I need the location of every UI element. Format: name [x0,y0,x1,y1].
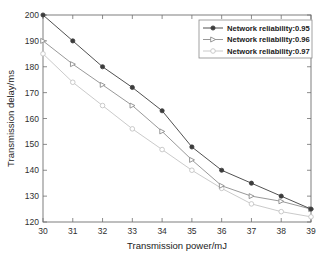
y-tick-label: 170 [25,88,39,98]
data-point-3-1 [70,80,75,85]
data-point-3-8 [279,209,284,214]
chart-canvas: 1201301401501601701801902003031323334353… [0,0,324,261]
data-point-3-0 [41,52,46,57]
data-point-3-2 [100,103,105,108]
x-tick-label: 35 [187,226,197,236]
data-point-1-7 [249,181,253,185]
data-point-3-4 [160,147,165,152]
data-point-3-3 [130,127,135,132]
y-tick-label: 160 [25,114,39,124]
series-line-3 [43,54,311,217]
x-tick-label: 36 [217,226,227,236]
x-tick-label: 39 [306,226,316,236]
x-tick-label: 31 [68,226,78,236]
x-tick-label: 33 [128,226,138,236]
x-tick-label: 34 [157,226,167,236]
x-tick-label: 30 [38,226,48,236]
data-point-3-7 [249,202,254,207]
chart-figure: 1201301401501601701801902003031323334353… [0,0,324,261]
data-point-1-8 [279,194,283,198]
data-point-1-4 [160,109,164,113]
y-tick-label: 180 [25,62,39,72]
y-axis-title: Transmission delay/ms [5,70,16,167]
x-axis-title: Transmission power/mJ [127,240,227,251]
legend-label-2: Network reliability:0.96 [227,35,310,44]
data-point-1-9 [309,207,313,211]
data-point-3-5 [190,168,195,173]
y-tick-label: 130 [25,191,39,201]
data-point-2-7 [249,194,254,199]
data-point-1-3 [130,85,134,89]
legend-marker-3 [211,49,216,54]
series-line-2 [43,41,311,209]
data-point-1-5 [190,145,194,149]
data-point-1-1 [71,39,75,43]
x-tick-label: 38 [276,226,286,236]
legend-marker-1 [211,26,215,30]
y-tick-label: 140 [25,165,39,175]
legend-label-3: Network reliability:0.97 [227,47,310,56]
x-tick-label: 37 [247,226,257,236]
x-tick-label: 32 [98,226,108,236]
data-point-2-8 [279,199,284,204]
series-2 [41,38,314,211]
y-tick-label: 200 [25,10,39,20]
y-tick-label: 120 [25,217,39,227]
legend-label-1: Network reliability:0.95 [227,24,310,33]
data-point-1-2 [100,65,104,69]
y-tick-label: 190 [25,36,39,46]
data-point-3-9 [309,215,314,220]
data-point-1-0 [41,13,45,17]
chart-legend: Network reliability:0.95Network reliabil… [199,20,312,58]
series-3 [41,52,314,220]
data-point-1-6 [220,168,224,172]
y-tick-label: 150 [25,139,39,149]
